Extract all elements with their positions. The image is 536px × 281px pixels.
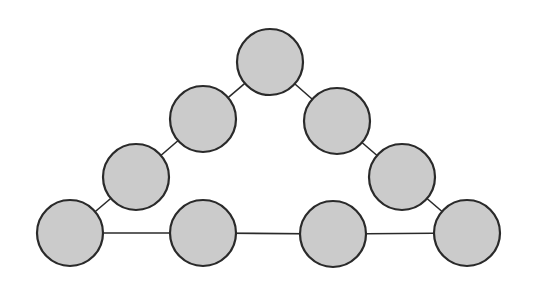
node-bottom-2 (170, 200, 236, 266)
node-left-3 (103, 144, 169, 210)
nodes-group (37, 29, 500, 267)
node-right-2 (304, 88, 370, 154)
node-top (237, 29, 303, 95)
node-right-3 (369, 144, 435, 210)
node-bottom-right (434, 200, 500, 266)
graph-diagram (0, 0, 536, 281)
node-bottom-3 (300, 201, 366, 267)
node-left-2 (170, 86, 236, 152)
node-bottom-left (37, 200, 103, 266)
